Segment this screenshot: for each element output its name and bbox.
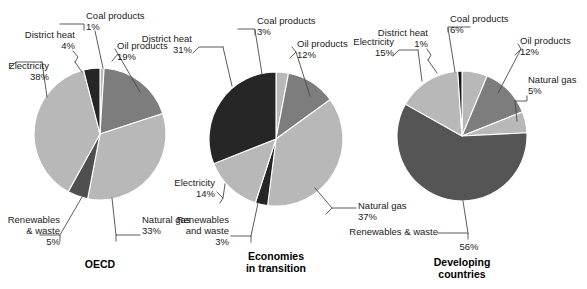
pie1-caption-text: OECD: [85, 258, 115, 270]
pie1-caption: OECD: [60, 258, 140, 270]
leader-electricity-2: [217, 192, 223, 203]
pie3-label-coal: Coal products 6%: [450, 13, 509, 35]
leader-district-2: [193, 47, 223, 53]
pie3-oil-text: Oil products: [520, 35, 571, 46]
leader-oil-2: [290, 47, 296, 58]
pie1-label-coal: Coal products 1%: [86, 10, 145, 32]
pie3-coal-text: Coal products: [450, 13, 509, 24]
pie3-label-oil: Oil products 12%: [520, 35, 571, 57]
leader-renew-1b: [60, 197, 82, 235]
pie3-oil-pct: 12%: [520, 46, 571, 57]
pie2-renew-pct: 3%: [165, 236, 229, 247]
pie2-label-electricity: Electricity 14%: [165, 177, 215, 199]
pie2-renew-text-1: Renewables: [177, 214, 229, 225]
leader-renew-2: [231, 236, 251, 242]
pie1-electricity-text: Electricity: [8, 60, 49, 71]
pie3-renew-pct: 56%: [459, 241, 478, 252]
pie2-caption-text-1: Economies: [248, 250, 304, 262]
pie2-oil-pct: 12%: [297, 49, 348, 60]
pie2-electricity-text: Electricity: [174, 177, 215, 188]
pie3-label-natural-gas: Natural gas 5%: [528, 74, 577, 96]
pie2-label-natural-gas: Natural gas 37%: [358, 200, 407, 222]
pie3-electricity-text: Electricity: [353, 36, 394, 47]
pie1-district-pct: 4%: [0, 40, 75, 51]
pie3-label-electricity: Electricity 15%: [352, 36, 394, 58]
pie2-coal-text: Coal products: [257, 15, 316, 26]
leader-coal-1b: [95, 31, 103, 68]
pie1-label-renewables: Renewables & waste 5%: [0, 214, 60, 247]
pie3-coal-pct: 6%: [450, 24, 509, 35]
leader-renew-3b: [463, 201, 468, 233]
pie2-district-pct: 31%: [120, 44, 192, 55]
three-pie-chart-figure: Coal products 1% District heat 4% Oil pr…: [0, 0, 587, 289]
pie2-gas-text: Natural gas: [358, 200, 407, 211]
pie3-gas-text: Natural gas: [528, 74, 577, 85]
pie2-label-coal: Coal products 3%: [257, 15, 316, 37]
pie2-label-oil: Oil products 12%: [297, 38, 348, 60]
leader-district-3: [427, 49, 431, 60]
leader-electricity-3: [393, 50, 418, 56]
pie1-label-district-heat: District heat 4%: [0, 29, 75, 51]
pie1-renew-text-2: & waste: [0, 225, 60, 236]
leader-coal-2: [238, 29, 255, 35]
pie1-coal-pct: 1%: [86, 21, 145, 32]
pie2-label-district-heat: District heat 31%: [120, 33, 192, 55]
pie2-renew-text-2: and waste: [165, 225, 229, 236]
leader-electricity-3b: [418, 50, 422, 81]
pie3-label-renewables-pct: 56%: [444, 241, 494, 252]
pie1-electricity-pct: 38%: [0, 71, 49, 82]
leader-renew-3: [438, 233, 468, 239]
pie2-coal-pct: 3%: [257, 26, 316, 37]
leader-gas-1b: [112, 198, 116, 235]
pie2-gas-pct: 37%: [358, 211, 407, 222]
pie1-renew-pct: 5%: [0, 236, 60, 247]
pie2-electricity-pct: 14%: [165, 188, 215, 199]
pie1-coal-text: Coal products: [86, 10, 145, 21]
pie2-caption: Economies in transition: [226, 250, 326, 274]
pie2-caption-text-2: in transition: [246, 262, 306, 274]
pie3-caption: Developing countries: [412, 256, 512, 280]
pie1-label-electricity: Electricity 38%: [0, 60, 49, 82]
pie1-district-text: District heat: [25, 29, 75, 40]
leader-gas-2: [326, 208, 356, 214]
pie3-label-renewables: Renewables & waste: [338, 226, 438, 237]
pie3-electricity-pct: 15%: [352, 47, 394, 58]
leader-district-2b: [223, 47, 232, 86]
pie-charts-svg: [0, 0, 587, 289]
leader-gas-1: [116, 235, 140, 241]
leader-electricity-2b: [223, 184, 225, 198]
pie1-renew-text-1: Renewables: [8, 214, 60, 225]
pie2-oil-text: Oil products: [297, 38, 348, 49]
leader-renew-2b: [251, 203, 258, 236]
pie2-label-renewables: Renewables and waste 3%: [165, 214, 229, 247]
pie3-gas-pct: 5%: [528, 85, 577, 96]
leader-gas-2b: [315, 188, 332, 208]
leader-district-1: [73, 51, 78, 62]
leader-oil-3b: [498, 49, 521, 93]
leader-district-1b: [75, 62, 82, 72]
pie3-caption-text-1: Developing: [434, 256, 491, 268]
pie2-district-text: District heat: [142, 33, 192, 44]
pie3-caption-text-2: countries: [438, 268, 485, 280]
pie3-renew-text: Renewables & waste: [349, 226, 438, 237]
leader-district-3b: [428, 60, 437, 73]
